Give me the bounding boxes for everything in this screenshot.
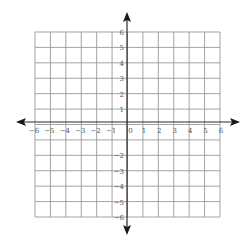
y-tick-label: 3 xyxy=(120,75,124,83)
x-tick-label: −4 xyxy=(60,127,71,135)
y-tick-label: −4 xyxy=(114,183,125,191)
x-tick-label: 3 xyxy=(173,127,177,135)
x-tick-label: 5 xyxy=(203,127,207,135)
x-tick-label: 6 xyxy=(219,127,224,135)
y-tick-label: 1 xyxy=(120,106,124,114)
x-tick-label: −5 xyxy=(44,127,54,135)
y-tick-label: −2 xyxy=(114,152,124,160)
x-tick-label: −2 xyxy=(91,127,101,135)
y-tick-label: −6 xyxy=(114,214,125,222)
y-tick-label: −3 xyxy=(114,168,124,176)
x-tick-label: 0 xyxy=(128,127,132,135)
y-tick-label: 5 xyxy=(120,44,124,52)
y-tick-label: 4 xyxy=(120,60,125,68)
y-tick-labels: 654321−2−3−4−5−6 xyxy=(114,29,125,222)
x-tick-label: 1 xyxy=(142,127,146,135)
y-tick-label: 2 xyxy=(120,91,124,99)
y-tick-label: −5 xyxy=(114,199,124,207)
x-tick-label: 2 xyxy=(157,127,161,135)
x-tick-labels: −6−5−4−3−2−10123456 xyxy=(29,127,224,135)
x-tick-label: −1 xyxy=(106,127,116,135)
x-tick-label: −6 xyxy=(29,127,40,135)
coordinate-plane: −6−5−4−3−2−10123456 654321−2−3−4−5−6 xyxy=(0,0,248,241)
x-tick-label: 4 xyxy=(188,127,193,135)
y-tick-label: 6 xyxy=(120,29,125,37)
x-tick-label: −3 xyxy=(75,127,85,135)
